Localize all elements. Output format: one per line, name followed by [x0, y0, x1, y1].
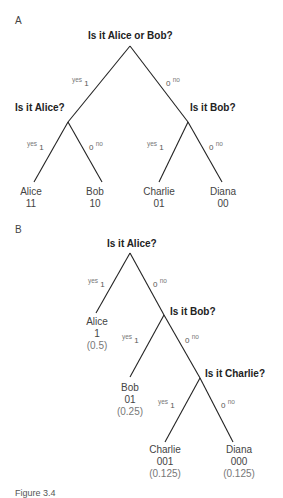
panel-b-bob-yes-edge: yes 1 [122, 333, 139, 345]
panel-a-leaf-bob: Bob10 [80, 186, 110, 210]
panel-b-question-charlie: Is it Charlie? [205, 368, 265, 379]
figure-caption: Figure 3.4 [15, 488, 56, 498]
panel-a-leaf-alice: Alice11 [16, 186, 46, 210]
panel-b-leaf-bob: Bob01(0.25) [110, 382, 150, 418]
panel-b-label: B [15, 224, 22, 235]
panel-b-leaf-charlie: Charlie001(0.125) [143, 444, 187, 480]
panel-b-charlie-yes-edge: yes 1 [158, 398, 175, 410]
panel-a-right-yes-edge: yes 1 [147, 140, 164, 152]
panel-b-question-bob: Is it Bob? [170, 306, 216, 317]
panel-a-left-no-edge: 0 no [89, 140, 103, 152]
panel-b-charlie-no-edge: 0 no [221, 398, 235, 410]
panel-b-bob-no-edge: 0 no [185, 333, 199, 345]
panel-a-right-question: Is it Bob? [190, 102, 236, 113]
panel-a-right-no-edge: 0 no [209, 140, 223, 152]
panel-b-leaf-alice: Alice1(0.5) [80, 316, 114, 352]
panel-a-left-question: Is it Alice? [15, 102, 65, 113]
panel-a-leaf-charlie: Charlie01 [140, 186, 178, 210]
panel-b-alice-no-edge: 0 no [153, 277, 167, 289]
panel-a-leaf-diana: Diana00 [207, 186, 239, 210]
panel-a-left-yes-edge: yes 1 [27, 140, 44, 152]
panel-a-label: A [15, 15, 22, 26]
panel-a-root-no-edge: 0 no [166, 76, 180, 88]
panel-a-root-question: Is it Alice or Bob? [88, 30, 173, 41]
panel-b-question-alice: Is it Alice? [107, 238, 157, 249]
panel-b-alice-yes-edge: yes 1 [88, 277, 105, 289]
panel-a-root-yes-edge: yes 1 [72, 76, 89, 88]
panel-b-leaf-diana: Diana000(0.125) [217, 444, 261, 480]
